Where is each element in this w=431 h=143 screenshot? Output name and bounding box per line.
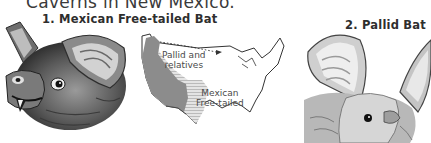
page-heading: Caverns in New Mexico. <box>26 0 235 12</box>
map-label-mexican-free-tailed: Mexican Free-tailed <box>196 88 244 108</box>
mexican-free-tailed-bat-illustration <box>0 18 132 140</box>
pallid-bat-illustration <box>300 22 431 143</box>
map-label-pallid: Pallid and relatives <box>162 50 206 70</box>
us-range-map <box>138 28 290 128</box>
